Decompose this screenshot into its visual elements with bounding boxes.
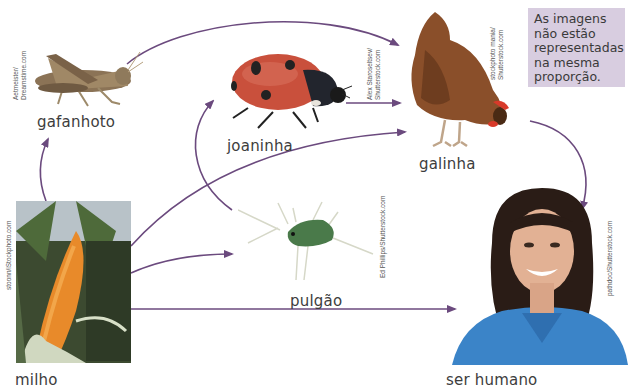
label-ser-humano: ser humano — [446, 373, 537, 388]
arrow-pulgao-joaninha — [195, 101, 232, 210]
note-line: proporção. — [534, 70, 619, 85]
label-joaninha: joaninha — [227, 139, 293, 154]
corn-image — [16, 201, 131, 363]
label-gafanhoto: gafanhoto — [37, 115, 115, 130]
label-galinha: galinha — [419, 157, 476, 172]
note-line: As imagens — [534, 12, 619, 27]
arrow-milho-pulgao — [131, 254, 232, 273]
ladybug-image — [228, 50, 353, 130]
note-line: não estão — [534, 27, 619, 42]
credit-milho: stoonn/iStockphoto.com — [5, 221, 13, 290]
label-milho: milho — [15, 373, 58, 388]
grasshopper-image — [28, 48, 143, 110]
food-web-diagram: gafanhoto joaninha galinha pulgão milho … — [0, 0, 636, 392]
note-line: representadas — [534, 41, 619, 56]
label-pulgao: pulgão — [290, 294, 342, 309]
aphid-image — [238, 198, 378, 288]
credit-gafanhoto: Aetmeister/ Dreamstime.com — [12, 51, 28, 100]
credit-ser-humano: pathdoc/Shutterstock.com — [606, 221, 614, 296]
scale-note-box: As imagens não estão representadas na me… — [528, 8, 625, 87]
credit-pulgao: Ed Phillips/Shutterstock.com — [379, 196, 387, 278]
note-line: na mesma — [534, 56, 619, 71]
credit-joaninha: Alex Staroseltsev/ Shutterstock.com — [366, 48, 382, 100]
arrow-milho-gafanhoto — [40, 139, 48, 201]
human-image — [452, 183, 628, 365]
credit-galinha: stockphoto mania/ Shutterstock.com — [489, 27, 505, 80]
